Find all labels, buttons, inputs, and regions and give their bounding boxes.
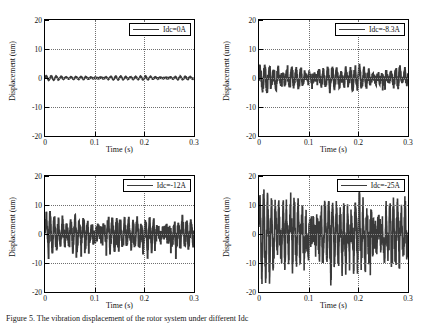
gridline-horizontal — [45, 49, 194, 50]
gridline-horizontal — [259, 205, 408, 206]
chart-panel-4: Displacement (um) 20100-10-2000.10.20.3I… — [214, 158, 428, 313]
y-axis-label-4: Displacement (um) — [222, 86, 234, 180]
gridline-vertical — [358, 176, 359, 292]
y-tick-label: -10 — [32, 103, 42, 112]
chart-panel-1: Displacement (um) 20100-10-2000.10.20.3I… — [0, 2, 214, 157]
y-tick-mark — [259, 263, 263, 264]
legend-label: Idc=0A — [163, 25, 186, 34]
figure-caption: Figure 5. The vibration displacement of … — [6, 314, 426, 324]
y-tick-mark — [259, 176, 263, 177]
x-tick-mark — [309, 132, 310, 136]
chart-legend: Idc=-12A — [123, 179, 191, 192]
chart-legend: Idc=-25A — [337, 179, 405, 192]
x-axis-label-3: Time (s) — [44, 301, 195, 310]
gridline-horizontal — [45, 263, 194, 264]
y-tick-mark — [259, 234, 263, 235]
legend-line-swatch — [339, 29, 365, 30]
y-tick-mark — [259, 20, 263, 21]
gridline-horizontal — [259, 263, 408, 264]
y-tick-label: -10 — [246, 103, 256, 112]
y-tick-label: 10 — [249, 201, 257, 210]
x-tick-mark — [95, 132, 96, 136]
zero-reference-line — [45, 234, 194, 235]
y-tick-label: 0 — [252, 74, 256, 83]
zero-reference-line — [45, 78, 194, 79]
legend-line-swatch — [127, 185, 153, 186]
y-axis-label-3: Displacement (um) — [8, 86, 20, 180]
chart-panel-2: Displacement (um) 20100-10-2000.10.20.3I… — [214, 2, 428, 157]
y-tick-mark — [259, 205, 263, 206]
legend-label: Idc=-12A — [157, 181, 186, 190]
y-tick-label: 20 — [35, 16, 43, 25]
gridline-horizontal — [259, 49, 408, 50]
y-tick-label: 0 — [38, 74, 42, 83]
waveform-path — [259, 189, 408, 285]
y-tick-mark — [45, 234, 49, 235]
gridline-vertical — [309, 176, 310, 292]
x-tick-mark — [358, 132, 359, 136]
y-tick-label: -10 — [246, 259, 256, 268]
gridline-vertical — [95, 176, 96, 292]
y-tick-mark — [45, 176, 49, 177]
y-tick-mark — [45, 292, 49, 293]
legend-line-swatch — [341, 185, 367, 186]
gridline-vertical — [358, 20, 359, 136]
gridline-vertical — [309, 20, 310, 136]
y-tick-mark — [45, 20, 49, 21]
y-tick-label: 20 — [35, 172, 43, 181]
y-tick-label: 10 — [249, 45, 257, 54]
x-tick-mark — [144, 132, 145, 136]
zero-reference-line — [259, 78, 408, 79]
zero-reference-line — [259, 234, 408, 235]
y-tick-label: -20 — [246, 288, 256, 297]
gridline-vertical — [144, 20, 145, 136]
gridline-vertical — [144, 176, 145, 292]
y-tick-mark — [259, 107, 263, 108]
y-tick-label: 10 — [35, 45, 43, 54]
y-tick-label: 0 — [252, 230, 256, 239]
plot-area-3: 20100-10-2000.10.20.3Idc=-12A — [44, 175, 195, 293]
legend-label: Idc=-25A — [371, 181, 400, 190]
y-tick-mark — [45, 136, 49, 137]
plot-area-4: 20100-10-2000.10.20.3Idc=-25A — [258, 175, 409, 293]
y-tick-label: -10 — [32, 259, 42, 268]
y-tick-mark — [259, 78, 263, 79]
gridline-vertical — [95, 20, 96, 136]
x-axis-label-4: Time (s) — [258, 301, 409, 310]
y-tick-mark — [259, 292, 263, 293]
x-tick-mark — [144, 288, 145, 292]
legend-line-swatch — [133, 29, 159, 30]
legend-label: Idc=-8.3A — [369, 25, 400, 34]
y-tick-label: -20 — [32, 288, 42, 297]
y-tick-mark — [259, 136, 263, 137]
y-tick-mark — [45, 107, 49, 108]
plot-area-1: 20100-10-2000.10.20.3Idc=0A — [44, 19, 195, 137]
x-axis-label-2: Time (s) — [258, 145, 409, 154]
y-tick-mark — [45, 205, 49, 206]
y-tick-mark — [45, 78, 49, 79]
y-tick-mark — [45, 263, 49, 264]
x-tick-mark — [309, 288, 310, 292]
gridline-horizontal — [259, 107, 408, 108]
y-tick-label: 10 — [35, 201, 43, 210]
y-tick-label: 20 — [249, 16, 257, 25]
y-tick-label: -20 — [246, 132, 256, 141]
y-axis-label-1: Displacement (um) — [8, 0, 20, 24]
chart-legend: Idc=-8.3A — [335, 23, 405, 36]
y-axis-label-2: Displacement (um) — [222, 0, 234, 24]
chart-panel-3: Displacement (um) 20100-10-2000.10.20.3I… — [0, 158, 214, 313]
x-tick-mark — [358, 288, 359, 292]
plot-area-2: 20100-10-2000.10.20.3Idc=-8.3A — [258, 19, 409, 137]
y-tick-label: -20 — [32, 132, 42, 141]
gridline-horizontal — [45, 107, 194, 108]
y-tick-label: 0 — [38, 230, 42, 239]
y-tick-mark — [259, 49, 263, 50]
figure-container: Displacement (um) 20100-10-2000.10.20.3I… — [0, 0, 428, 324]
chart-legend: Idc=0A — [129, 23, 191, 36]
y-tick-label: 20 — [249, 172, 257, 181]
x-axis-label-1: Time (s) — [44, 145, 195, 154]
y-tick-mark — [45, 49, 49, 50]
x-tick-mark — [95, 288, 96, 292]
gridline-horizontal — [45, 205, 194, 206]
